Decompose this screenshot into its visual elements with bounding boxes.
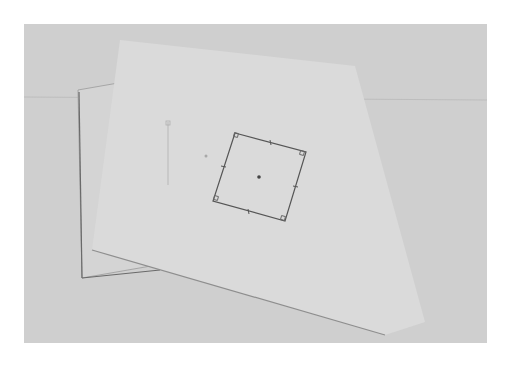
center-dot — [257, 175, 261, 179]
paper-scene — [0, 0, 512, 371]
faint-center-dot — [205, 155, 208, 158]
front-sheet — [92, 40, 425, 335]
